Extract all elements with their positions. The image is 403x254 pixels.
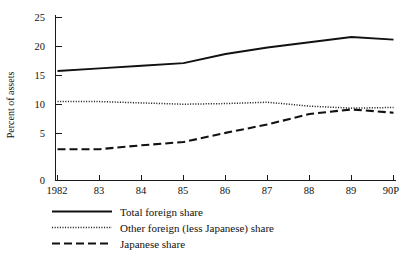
chart-container: Percent of assets 25 20 15 10 5 0 — [0, 0, 403, 254]
x-tick-label-88: 88 — [304, 185, 315, 196]
x-tick-label-84: 84 — [136, 185, 147, 196]
y-tick-label-5: 5 — [40, 128, 45, 139]
y-tick-label-25: 25 — [35, 12, 46, 23]
legend-label-japanese-share: Japanese share — [120, 238, 185, 250]
x-tick-label-86: 86 — [220, 185, 231, 196]
legend-label-other-foreign-share: Other foreign (less Japanese) share — [120, 222, 274, 235]
y-tick-label-10: 10 — [35, 99, 46, 110]
chart-legend: Total foreign share Other foreign (less … — [52, 206, 274, 250]
series-line-other-foreign-share — [58, 102, 394, 109]
x-tick-label-89: 89 — [346, 185, 357, 196]
y-tick-marks — [56, 18, 62, 134]
x-tick-label-85: 85 — [178, 185, 189, 196]
y-tick-label-15: 15 — [35, 70, 46, 81]
y-axis-title: Percent of assets — [5, 72, 16, 139]
y-tick-label-0: 0 — [40, 175, 45, 186]
line-chart: Percent of assets 25 20 15 10 5 0 — [0, 0, 403, 254]
x-tick-marks — [58, 175, 394, 181]
series-line-japanese-share — [58, 109, 394, 149]
y-tick-label-20: 20 — [35, 41, 46, 52]
x-tick-label-90P: 90P — [383, 185, 400, 196]
legend-label-total-foreign-share: Total foreign share — [120, 206, 203, 218]
series-line-total-foreign-share — [58, 37, 394, 71]
x-tick-label-87: 87 — [262, 185, 273, 196]
x-tick-label-83: 83 — [94, 185, 105, 196]
x-tick-label-1982: 1982 — [47, 185, 68, 196]
